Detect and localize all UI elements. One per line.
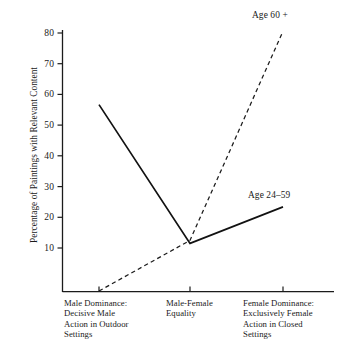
y-tick-label-40: 40: [28, 151, 54, 161]
series-line-age-24-59: [99, 105, 283, 244]
y-tick-label-20: 20: [28, 212, 54, 222]
chart-figure: Percentage of Paintings with Relevant Co…: [0, 0, 349, 361]
x-tick-label-female-dominance: Female Dominance: Exclusively Female Act…: [243, 298, 348, 340]
y-tick-label-70: 70: [28, 59, 54, 69]
x-tick-marks: [99, 287, 283, 292]
series-annotation-age-60-plus: Age 60 +: [252, 10, 288, 20]
x-tick-label-male-female-equality: Male-Female Equality: [166, 298, 246, 319]
series-line-age-60-plus: [99, 31, 283, 291]
y-tick-label-50: 50: [28, 120, 54, 130]
y-tick-label-80: 80: [28, 28, 54, 38]
y-tick-label-60: 60: [28, 89, 54, 99]
x-tick-label-male-dominance: Male Dominance: Decisive Male Action in …: [64, 298, 164, 340]
y-tick-label-30: 30: [28, 182, 54, 192]
y-tick-label-10: 10: [28, 243, 54, 253]
y-tick-marks: [58, 33, 63, 248]
series-annotation-age-24-59: Age 24–59: [248, 190, 290, 200]
